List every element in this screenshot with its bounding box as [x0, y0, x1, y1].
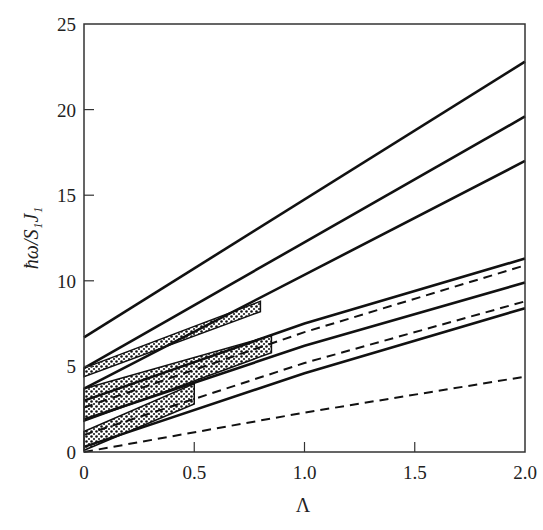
- y-tick-label: 0: [67, 442, 77, 463]
- y-tick-label: 20: [57, 100, 76, 121]
- y-tick-label: 25: [57, 14, 76, 35]
- series-solid-3: [84, 161, 525, 389]
- x-axis-label: Λ: [296, 494, 311, 516]
- y-tick-label: 5: [67, 356, 77, 377]
- x-tick-label: 0.5: [182, 462, 206, 483]
- x-axis: 00.51.01.52.0: [79, 442, 537, 483]
- x-tick-label: 1.0: [293, 462, 317, 483]
- y-tick-label: 15: [57, 185, 76, 206]
- y-axis-label: ħω/S₁J₁: [20, 207, 42, 269]
- series-solid-1: [84, 62, 525, 338]
- x-tick-label: 1.5: [403, 462, 427, 483]
- series-solid-2: [84, 116, 525, 368]
- chart: 00.51.01.52.0 0510152025 Λ ħω/S₁J₁: [0, 0, 543, 530]
- y-tick-label: 10: [57, 271, 76, 292]
- x-tick-label: 0: [79, 462, 89, 483]
- x-tick-label: 2.0: [513, 462, 537, 483]
